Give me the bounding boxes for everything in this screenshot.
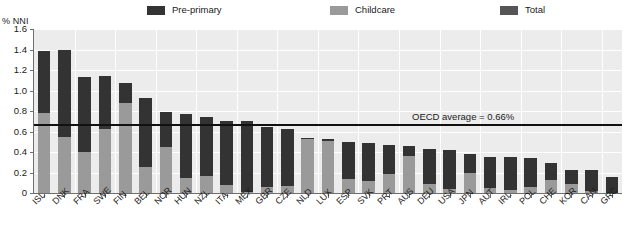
- bar-segment-pre-primary: [241, 121, 254, 192]
- bar-segment-pre-primary: [220, 121, 233, 185]
- bar-segment-pre-primary: [524, 158, 537, 187]
- x-axis: ISLDNKFRASWEFINBELNORHUNNZLITAMEXGBRCZEN…: [34, 193, 622, 239]
- bar-segment-pre-primary: [322, 139, 335, 141]
- bar-segment-pre-primary: [484, 157, 497, 188]
- chart-legend: Pre-primaryChildcareTotal: [0, 0, 625, 20]
- bar-segment-pre-primary: [342, 142, 355, 179]
- y-tick-label: 0.8: [14, 106, 27, 116]
- bar-mex: [241, 121, 254, 193]
- bar-segment-pre-primary: [78, 77, 91, 152]
- y-tick-label: 1.2: [14, 65, 27, 75]
- bar-segment-childcare: [301, 139, 314, 193]
- bar-segment-pre-primary: [261, 127, 274, 186]
- y-tick-label: 0: [22, 188, 27, 198]
- legend-item-pre-primary: Pre-primary: [147, 3, 222, 17]
- vertical-gridline: [521, 29, 522, 193]
- bar-jpn: [464, 154, 477, 193]
- bar-segment-childcare: [99, 129, 112, 193]
- bar-ita: [220, 121, 233, 193]
- bar-segment-pre-primary: [38, 51, 51, 114]
- bar-fra: [78, 77, 91, 193]
- vertical-gridline: [156, 29, 157, 193]
- vertical-gridline: [115, 29, 116, 193]
- vertical-gridline: [561, 29, 562, 193]
- bar-swe: [99, 76, 112, 193]
- bar-segment-pre-primary: [423, 149, 436, 184]
- bar-bel: [139, 98, 152, 193]
- bar-nld: [301, 138, 314, 193]
- bar-nzl: [200, 117, 213, 193]
- y-tick-label: 1.4: [14, 45, 27, 55]
- bar-segment-childcare: [322, 141, 335, 193]
- bar-segment-pre-primary: [504, 157, 517, 190]
- oecd-average-label: OECD average = 0.66%: [412, 111, 514, 122]
- bar-fin: [119, 83, 132, 193]
- legend-swatch-icon: [500, 6, 518, 15]
- bar-esp: [342, 142, 355, 193]
- bar-gbr: [261, 127, 274, 193]
- plot-area: OECD average = 0.66%: [34, 29, 622, 193]
- y-tick-label: 0.2: [14, 168, 27, 178]
- bar-irl: [504, 157, 517, 193]
- vertical-gridline: [602, 29, 603, 193]
- bar-segment-pre-primary: [464, 154, 477, 172]
- bar-cze: [281, 129, 294, 193]
- vertical-gridline: [358, 29, 359, 193]
- y-tick-label: 1.0: [14, 86, 27, 96]
- bar-lux: [322, 139, 335, 193]
- vertical-gridline: [75, 29, 76, 193]
- legend-swatch-icon: [330, 6, 348, 15]
- vertical-gridline: [399, 29, 400, 193]
- vertical-gridline: [196, 29, 197, 193]
- bar-segment-childcare: [119, 103, 132, 193]
- y-tick-label: 1.6: [14, 24, 27, 34]
- bar-prt: [383, 145, 396, 193]
- oecd-average-line: [34, 124, 622, 126]
- bar-segment-pre-primary: [443, 150, 456, 189]
- gridline: [34, 70, 622, 71]
- bar-segment-pre-primary: [545, 163, 558, 179]
- gridline: [34, 29, 622, 30]
- bar-segment-pre-primary: [119, 83, 132, 102]
- vertical-gridline: [318, 29, 319, 193]
- bar-svk: [362, 143, 375, 193]
- y-axis: 00.20.40.60.81.01.21.41.6: [0, 29, 34, 194]
- y-tick-label: 0.4: [14, 147, 27, 157]
- legend-label: Childcare: [355, 5, 395, 15]
- y-tick-label: 0.6: [14, 127, 27, 137]
- bar-segment-pre-primary: [139, 98, 152, 168]
- bar-segment-pre-primary: [99, 76, 112, 129]
- bar-segment-pre-primary: [403, 146, 416, 156]
- legend-item-total: Total: [500, 3, 545, 17]
- legend-label: Pre-primary: [172, 5, 222, 15]
- bar-segment-pre-primary: [362, 143, 375, 181]
- gridline: [34, 50, 622, 51]
- bar-segment-childcare: [58, 137, 71, 193]
- bar-dnk: [58, 50, 71, 194]
- bar-segment-pre-primary: [301, 138, 314, 139]
- legend-label: Total: [525, 5, 545, 15]
- bar-segment-pre-primary: [160, 112, 173, 147]
- bar-segment-pre-primary: [565, 170, 578, 183]
- vertical-gridline: [277, 29, 278, 193]
- bar-segment-pre-primary: [281, 129, 294, 185]
- vertical-gridline: [237, 29, 238, 193]
- bar-isl: [38, 51, 51, 193]
- chart-figure: Pre-primaryChildcareTotal % NNI 00.20.40…: [0, 0, 625, 239]
- legend-swatch-icon: [147, 6, 165, 15]
- legend-item-childcare: Childcare: [330, 3, 395, 17]
- bar-segment-pre-primary: [383, 145, 396, 174]
